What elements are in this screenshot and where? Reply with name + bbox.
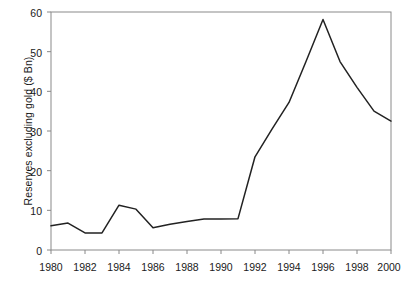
plot-frame [51, 12, 391, 250]
data-series-line [51, 20, 391, 233]
x-axis-ticks [51, 250, 391, 254]
y-axis-ticks [47, 12, 51, 250]
